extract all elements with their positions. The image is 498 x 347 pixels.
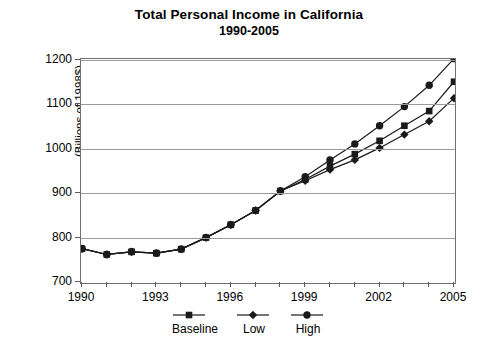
circle-marker bbox=[303, 311, 310, 318]
legend-label: High bbox=[296, 322, 321, 336]
y-axis-tick-label: 1100 bbox=[12, 97, 72, 109]
square-marker bbox=[128, 249, 135, 256]
square-marker bbox=[228, 221, 235, 228]
x-axis-tick-mark bbox=[131, 282, 132, 287]
diamond-marker bbox=[236, 309, 270, 321]
circle-marker bbox=[426, 82, 433, 89]
x-axis-tick-mark bbox=[155, 282, 156, 287]
x-axis-tick-mark bbox=[205, 282, 206, 287]
y-axis-tick-label: 700 bbox=[12, 275, 72, 287]
y-axis-tick-label: 1000 bbox=[12, 142, 72, 154]
square-marker bbox=[178, 246, 185, 253]
x-axis-tick-mark bbox=[81, 282, 82, 287]
legend-label: Low bbox=[243, 322, 265, 336]
x-axis-tick-mark bbox=[329, 282, 330, 287]
x-axis-tick-mark bbox=[428, 282, 429, 287]
y-axis-tick-mark bbox=[75, 103, 80, 104]
circle-marker bbox=[376, 122, 383, 129]
y-axis-tick-label: 1200 bbox=[12, 53, 72, 65]
x-axis-tick-mark bbox=[279, 282, 280, 287]
gridline bbox=[81, 149, 455, 150]
gridline bbox=[81, 60, 455, 61]
legend-item-high[interactable]: High bbox=[290, 309, 326, 336]
x-axis-tick-label: 1990 bbox=[51, 291, 111, 303]
legend-item-baseline[interactable]: Baseline bbox=[172, 309, 218, 336]
square-marker bbox=[81, 245, 85, 252]
diamond-marker bbox=[249, 311, 257, 319]
x-axis-tick-mark bbox=[379, 282, 380, 287]
x-axis-tick-label: 2005 bbox=[423, 291, 483, 303]
chart-title-line1: Total Personal Income in California bbox=[0, 6, 498, 23]
x-axis-tick-mark bbox=[230, 282, 231, 287]
x-axis-tick-label: 1999 bbox=[274, 291, 334, 303]
square-marker bbox=[426, 108, 433, 115]
series-high bbox=[81, 59, 455, 258]
y-axis-tick-label: 800 bbox=[12, 231, 72, 243]
y-axis-tick-mark bbox=[75, 281, 80, 282]
square-marker bbox=[451, 78, 455, 85]
series-line bbox=[82, 98, 454, 254]
chart-figure: Total Personal Income in California 1990… bbox=[0, 0, 498, 347]
chart-legend: BaselineLowHigh bbox=[0, 309, 498, 336]
x-axis-tick-mark bbox=[106, 282, 107, 287]
x-axis-tick-mark bbox=[453, 282, 454, 287]
square-marker bbox=[104, 251, 111, 258]
gridline bbox=[81, 104, 455, 105]
x-axis-tick-mark bbox=[304, 282, 305, 287]
series-baseline bbox=[81, 78, 455, 257]
series-group bbox=[81, 59, 455, 283]
y-axis-tick-mark bbox=[75, 148, 80, 149]
legend-item-low[interactable]: Low bbox=[236, 309, 272, 336]
x-axis-tick-mark bbox=[255, 282, 256, 287]
y-axis-tick-mark bbox=[75, 59, 80, 60]
y-axis-tick-mark bbox=[75, 192, 80, 193]
diamond-marker bbox=[375, 144, 383, 152]
x-axis-tick-label: 1996 bbox=[200, 291, 260, 303]
series-line bbox=[82, 82, 454, 255]
square-marker bbox=[302, 176, 309, 183]
x-axis-tick-mark bbox=[403, 282, 404, 287]
square-marker bbox=[153, 250, 160, 257]
x-axis-tick-mark bbox=[180, 282, 181, 287]
circle-marker bbox=[290, 309, 324, 321]
plot-area bbox=[80, 58, 456, 284]
gridline bbox=[81, 238, 455, 239]
x-axis-tick-label: 1993 bbox=[125, 291, 185, 303]
series-low bbox=[81, 94, 455, 259]
y-axis-tick-mark bbox=[75, 237, 80, 238]
square-marker bbox=[172, 309, 206, 321]
gridline bbox=[81, 193, 455, 194]
square-marker bbox=[327, 163, 334, 170]
x-axis-tick-mark bbox=[354, 282, 355, 287]
legend-label: Baseline bbox=[172, 322, 218, 336]
circle-marker bbox=[351, 140, 358, 147]
square-marker bbox=[401, 122, 408, 129]
square-marker bbox=[186, 312, 193, 319]
square-marker bbox=[252, 207, 259, 214]
square-marker bbox=[352, 151, 359, 158]
y-axis-tick-label: 900 bbox=[12, 186, 72, 198]
x-axis-tick-label: 2002 bbox=[349, 291, 409, 303]
diamond-marker bbox=[400, 130, 408, 138]
square-marker bbox=[376, 138, 383, 145]
series-line bbox=[82, 59, 454, 254]
circle-marker bbox=[326, 156, 333, 163]
